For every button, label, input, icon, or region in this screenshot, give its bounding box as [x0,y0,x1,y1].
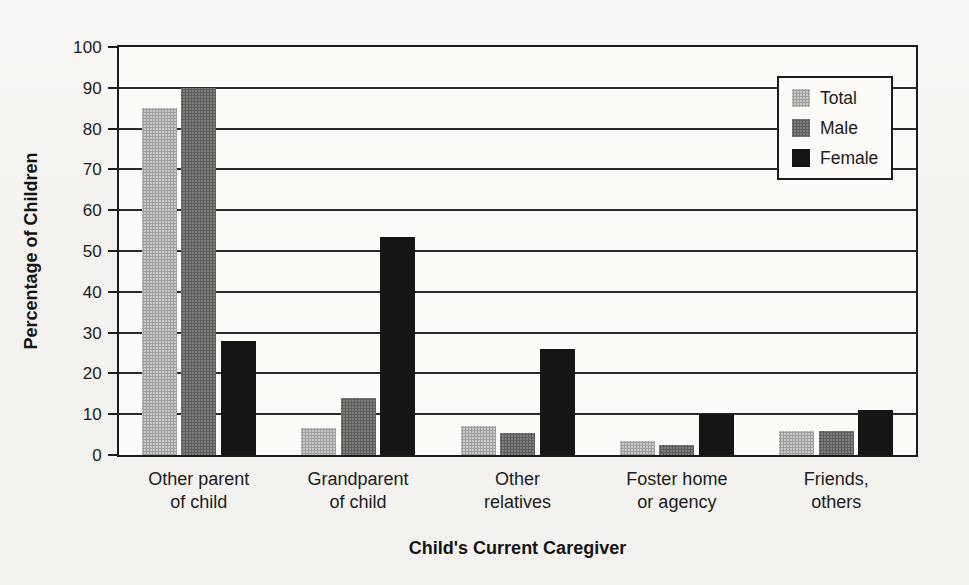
y-tick-label-90: 90 [38,80,102,97]
bar-chart-figure: Percentage of Children 01020304050607080… [0,0,969,585]
category-label-3: Other relatives [436,468,600,514]
y-tick-30 [108,332,117,334]
bar-male-5 [819,431,854,455]
category-label-2: Grandparent of child [276,468,440,514]
y-tick-80 [108,128,117,130]
category-label-4: Foster home or agency [595,468,759,514]
legend-swatch-total [792,89,810,107]
y-tick-label-100: 100 [38,39,102,56]
legend-swatch-female [792,149,810,167]
y-tick-label-70: 70 [38,161,102,178]
y-tick-label-40: 40 [38,284,102,301]
scanned-book-page: Percentage of Children 01020304050607080… [0,0,969,585]
bar-male-4 [659,445,694,455]
legend-label-male: Male [820,118,858,139]
bar-female-3 [540,349,575,455]
y-tick-90 [108,87,117,89]
category-label-5: Friends, others [754,468,918,514]
y-tick-label-10: 10 [38,406,102,423]
y-tick-10 [108,413,117,415]
y-tick-70 [108,168,117,170]
bar-female-4 [699,414,734,455]
legend-entry-male: Male [792,118,891,139]
gridline-60 [119,209,916,211]
bar-male-1 [181,88,216,455]
y-tick-100 [108,46,117,48]
bar-total-5 [779,431,814,455]
bar-total-4 [620,441,655,455]
y-tick-label-50: 50 [38,243,102,260]
bar-female-5 [858,410,893,455]
y-tick-0 [108,454,117,456]
bar-total-1 [142,108,177,455]
y-tick-50 [108,250,117,252]
gridline-30 [119,332,916,334]
bar-total-2 [301,428,336,455]
y-tick-label-60: 60 [38,202,102,219]
legend-entry-female: Female [792,148,891,169]
x-axis-title: Child's Current Caregiver [117,538,918,559]
y-tick-label-30: 30 [38,325,102,342]
bar-female-2 [380,237,415,455]
gridline-50 [119,250,916,252]
y-tick-label-80: 80 [38,121,102,138]
y-tick-20 [108,372,117,374]
y-tick-40 [108,291,117,293]
bar-male-3 [500,433,535,455]
bar-male-2 [341,398,376,455]
legend-swatch-male [792,119,810,137]
y-tick-label-0: 0 [38,447,102,464]
legend-label-female: Female [820,148,878,169]
category-label-1: Other parent of child [117,468,281,514]
bar-female-1 [221,341,256,455]
gridline-40 [119,291,916,293]
legend-label-total: Total [820,88,857,109]
legend: TotalMaleFemale [777,76,893,180]
y-tick-label-20: 20 [38,365,102,382]
y-tick-60 [108,209,117,211]
legend-entry-total: Total [792,88,891,109]
bar-total-3 [461,426,496,455]
